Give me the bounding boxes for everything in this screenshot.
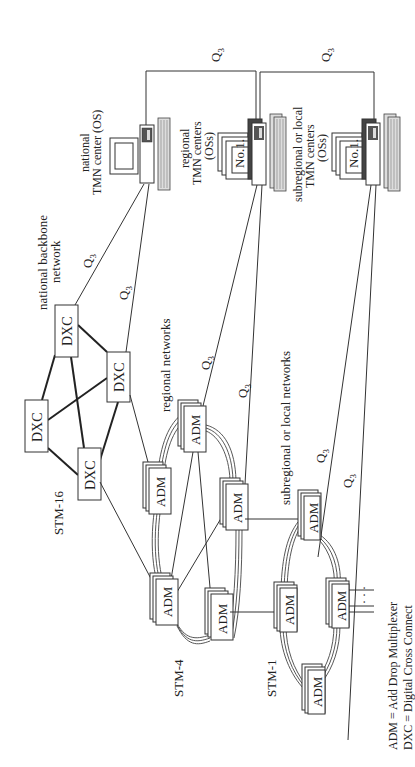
adm-regional-right[interactable]: ADM xyxy=(220,478,248,530)
q3-label-local-1: Q3 xyxy=(313,449,331,463)
svg-text:ADM: ADM xyxy=(282,594,297,625)
adm-local-bottom[interactable]: ADM xyxy=(302,664,325,714)
adm-regional-bottom-right[interactable]: ADM xyxy=(205,588,233,640)
national-tmn-label-2: TMN center (OS) xyxy=(90,110,104,195)
svg-text:ADM: ADM xyxy=(334,590,349,621)
adm-local-top[interactable]: ADM xyxy=(298,490,321,540)
stm16-label: STM-16 xyxy=(51,490,66,535)
regional-networks-label: regional networks xyxy=(158,318,173,412)
q3-management-lines xyxy=(75,184,376,740)
stm1-label: STM-1 xyxy=(264,659,279,697)
national-tmn-center-computer-icon xyxy=(110,118,170,190)
backbone-network-label-2: network xyxy=(48,240,63,283)
svg-text:ADM: ADM xyxy=(160,586,175,617)
svg-text:DXC: DXC xyxy=(112,362,127,392)
tmn-sdh-network-diagram: Q3 Q3 national TMN center (OS) No.1. reg… xyxy=(0,0,415,767)
subregional-networks-label: subregional or local networks xyxy=(278,351,293,505)
subregional-os-screen-label: No.1. xyxy=(346,139,361,168)
svg-text:ADM: ADM xyxy=(188,414,203,445)
svg-text:DXC: DXC xyxy=(30,412,45,442)
adm-regional-top[interactable]: ADM xyxy=(178,400,206,452)
adm-local-right[interactable]: ADM xyxy=(326,578,349,628)
svg-text:ADM: ADM xyxy=(215,603,230,634)
regional-os-screen-label: No.1. xyxy=(232,139,247,168)
svg-text:DXC: DXC xyxy=(60,316,75,346)
legend-dxc: DXC = Digital Cross Connect xyxy=(401,605,415,750)
svg-text:ADM: ADM xyxy=(153,476,168,507)
dxc-node-left[interactable]: DXC xyxy=(25,400,48,452)
adm-local-left[interactable]: ADM xyxy=(274,582,297,632)
subregional-tmn-label-3: (OSs) xyxy=(315,134,329,162)
svg-text:DXC: DXC xyxy=(83,460,98,490)
q3-label-local-2: Q3 xyxy=(340,474,358,488)
regional-tmn-centers-computer-icon xyxy=(218,114,286,191)
legend-adm: ADM = Add Drop Multiplexer xyxy=(386,602,400,750)
stm4-label: STM-4 xyxy=(171,659,186,697)
dxc-node-top[interactable]: DXC xyxy=(55,305,78,357)
q3-label-top-1: Q3 xyxy=(208,48,226,62)
subregional-tmn-centers-computer-icon xyxy=(332,114,400,191)
svg-text:ADM: ADM xyxy=(306,502,321,533)
dxc-node-right[interactable]: DXC xyxy=(107,352,130,402)
regional-tmn-label-3: (OSs) xyxy=(202,132,216,160)
q3-label-national-1: Q3 xyxy=(80,254,98,268)
tributary-ellipsis: · · · xyxy=(357,586,371,604)
svg-text:ADM: ADM xyxy=(230,492,245,523)
q3-label-top-2: Q3 xyxy=(318,48,336,62)
q3-label-national-2: Q3 xyxy=(116,286,134,300)
dxc-node-bottom[interactable]: DXC xyxy=(78,448,101,500)
adm-regional-bottom-left[interactable]: ADM xyxy=(150,573,178,625)
adm-regional-left[interactable]: ADM xyxy=(143,462,171,514)
svg-text:ADM: ADM xyxy=(310,676,325,707)
